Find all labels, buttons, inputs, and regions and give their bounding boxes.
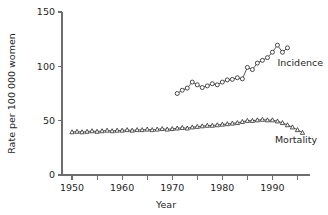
data-point-mortality — [235, 121, 239, 125]
data-point-incidence — [280, 50, 284, 54]
data-point-incidence — [265, 56, 269, 60]
data-point-mortality — [140, 128, 144, 132]
y-axis-title: Rate per 100 000 women — [6, 33, 17, 154]
data-point-incidence — [270, 50, 274, 54]
data-point-mortality — [90, 129, 94, 133]
data-point-mortality — [260, 117, 264, 121]
data-point-incidence — [210, 82, 214, 86]
y-tick-label: 100 — [37, 61, 55, 72]
data-point-mortality — [105, 128, 109, 132]
data-point-incidence — [275, 43, 279, 47]
data-point-incidence — [225, 78, 229, 82]
data-point-incidence — [245, 65, 249, 69]
x-tick-label: 1970 — [160, 182, 184, 193]
data-point-mortality — [120, 128, 124, 132]
data-point-mortality — [165, 127, 169, 131]
x-axis-ticks: 19501960197019801990 — [60, 175, 298, 193]
data-point-mortality — [150, 128, 154, 132]
data-point-mortality — [295, 128, 299, 132]
data-point-mortality — [85, 129, 89, 133]
data-point-mortality — [115, 128, 119, 132]
x-tick-label: 1960 — [110, 182, 134, 193]
data-point-incidence — [200, 86, 204, 90]
data-point-incidence — [185, 86, 189, 90]
axis-lines — [62, 12, 310, 175]
data-point-incidence — [180, 88, 184, 92]
data-point-mortality — [270, 118, 274, 122]
data-point-mortality — [195, 124, 199, 128]
data-point-mortality — [200, 124, 204, 128]
data-point-mortality — [275, 119, 279, 123]
x-tick-label: 1980 — [210, 182, 234, 193]
data-point-mortality — [95, 129, 99, 133]
y-tick-label: 50 — [43, 115, 55, 126]
data-point-mortality — [205, 123, 209, 127]
data-point-incidence — [230, 77, 234, 81]
y-tick-label: 150 — [37, 6, 55, 17]
data-point-mortality — [240, 119, 244, 123]
data-point-mortality — [175, 126, 179, 130]
data-point-incidence — [285, 46, 289, 50]
data-point-mortality — [185, 126, 189, 130]
chart-figure: 050100150 19501960197019801990 Incidence… — [0, 0, 328, 215]
data-point-mortality — [70, 130, 74, 134]
data-point-incidence — [255, 61, 259, 65]
data-point-mortality — [250, 118, 254, 122]
data-point-mortality — [75, 129, 79, 133]
data-point-mortality — [135, 128, 139, 132]
series-label-mortality: Mortality — [275, 134, 317, 145]
data-point-mortality — [80, 130, 84, 134]
data-point-mortality — [100, 129, 104, 133]
data-point-incidence — [175, 92, 179, 96]
series-labels-group: IncidenceMortality — [275, 57, 323, 145]
data-point-mortality — [130, 128, 134, 132]
data-point-incidence — [235, 76, 239, 80]
data-point-incidence — [215, 83, 219, 87]
y-tick-label: 0 — [49, 169, 55, 180]
data-point-mortality — [225, 122, 229, 126]
data-series-group — [70, 43, 305, 134]
data-point-mortality — [280, 121, 284, 125]
line-chart: 050100150 19501960197019801990 Incidence… — [0, 0, 328, 215]
data-point-mortality — [110, 129, 114, 133]
x-tick-label: 1950 — [60, 182, 84, 193]
data-point-mortality — [290, 125, 294, 129]
x-axis-title: Year — [155, 199, 176, 210]
data-point-mortality — [220, 122, 224, 126]
data-point-incidence — [250, 68, 254, 72]
data-point-mortality — [145, 127, 149, 131]
data-point-mortality — [180, 125, 184, 129]
data-point-mortality — [160, 127, 164, 131]
data-point-mortality — [125, 128, 129, 132]
data-point-mortality — [265, 118, 269, 122]
data-point-incidence — [220, 80, 224, 84]
data-point-incidence — [195, 83, 199, 87]
data-point-mortality — [215, 123, 219, 127]
data-point-mortality — [170, 127, 174, 131]
data-point-mortality — [190, 125, 194, 129]
data-point-mortality — [210, 123, 214, 127]
data-point-mortality — [230, 121, 234, 125]
y-axis-ticks: 050100150 — [37, 6, 62, 180]
series-label-incidence: Incidence — [277, 57, 323, 68]
data-point-mortality — [255, 118, 259, 122]
data-point-mortality — [155, 127, 159, 131]
data-point-incidence — [205, 84, 209, 88]
data-point-mortality — [285, 123, 289, 127]
data-point-incidence — [240, 77, 244, 81]
data-point-incidence — [190, 80, 194, 84]
data-point-incidence — [260, 58, 264, 62]
x-tick-label: 1990 — [260, 182, 284, 193]
data-point-mortality — [245, 118, 249, 122]
